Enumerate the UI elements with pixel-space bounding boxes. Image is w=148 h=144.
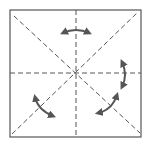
origami-diagram <box>0 0 148 144</box>
